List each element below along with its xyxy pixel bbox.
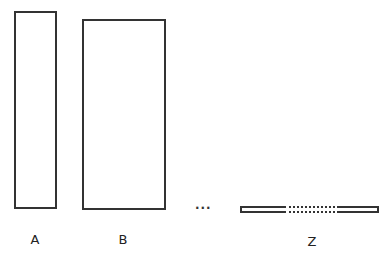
rectangle-a [14,11,57,209]
ellipsis-marker: ... [195,198,212,212]
label-z: Z [308,234,317,249]
rectangle-z-solid-left [240,206,284,213]
rectangle-z-solid-right [339,206,379,213]
label-b: B [119,232,128,247]
label-a: A [31,232,40,247]
rectangle-z-dotted-middle [284,206,339,213]
rectangle-b [82,19,166,210]
rectangle-z [240,206,379,213]
